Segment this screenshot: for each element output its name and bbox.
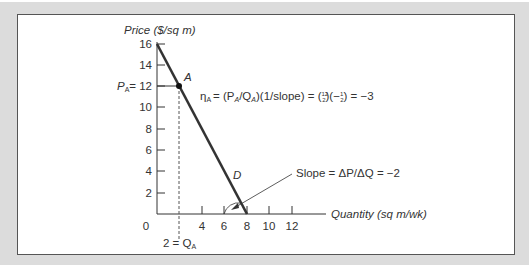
x-tick-0: 0 [143, 220, 149, 232]
point-a-marker [176, 83, 182, 89]
x-tick-12: 12 [286, 220, 299, 232]
y-tick-8: 8 [146, 123, 152, 135]
curve-d-label: D [233, 169, 241, 181]
y-axis-title: Price ($/sq m) [124, 24, 196, 36]
angle-arc [224, 203, 241, 214]
y-tick-4: 4 [146, 165, 153, 177]
x-tick-6: 6 [221, 220, 227, 232]
slope-arrow [234, 174, 292, 208]
y-tick-6: 6 [146, 144, 152, 156]
y-tick-16: 16 [139, 38, 152, 50]
slope-annotation: Slope = ΔP/ΔQ = −2 [296, 167, 400, 179]
x-tick-4: 4 [199, 220, 206, 232]
x-tick-8: 8 [244, 220, 250, 232]
y-tick-2: 2 [146, 187, 152, 199]
elasticity-formula: ηA= (PA/QA)(1/slope) = (122)(−12) = −3 [200, 90, 374, 103]
pa-label: PA= 12 [117, 80, 152, 93]
y-ticks [157, 44, 165, 193]
x-axis-title: Quantity (sq m/wk) [331, 208, 427, 220]
demand-chart: 16 14 10 8 6 4 2 PA= 12 0 4 6 8 10 12 2 … [0, 0, 530, 278]
y-tick-14: 14 [139, 59, 152, 71]
qa-label: 2 = QA [163, 237, 196, 250]
y-tick-10: 10 [139, 101, 152, 113]
x-tick-10: 10 [263, 220, 276, 232]
point-a-label: A [183, 71, 192, 83]
demand-curve [157, 44, 247, 214]
